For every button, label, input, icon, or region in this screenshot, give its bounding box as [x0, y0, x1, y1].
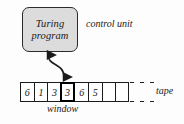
tape-cell[interactable]: 1 — [34, 82, 48, 102]
turing-machine-figure: Turing program control unit 6 1 3 3 6 5 — [0, 0, 184, 124]
tape-dash — [150, 82, 154, 83]
tape-cell[interactable]: 6 — [74, 82, 88, 102]
window-label: window — [47, 103, 78, 114]
tape-cell[interactable]: 5 — [88, 82, 102, 102]
turing-program-line-2: program — [31, 30, 68, 42]
turing-program-line-1: Turing — [36, 18, 65, 30]
tape: 6 1 3 3 6 5 — [20, 82, 129, 102]
tape-dash — [150, 101, 154, 102]
tape-cell[interactable] — [115, 82, 129, 102]
tape-dash — [140, 82, 144, 83]
control-unit-label: control unit — [86, 18, 133, 29]
read-write-head-arrow-icon — [38, 47, 78, 85]
tape-label: tape — [156, 85, 173, 96]
tape-cell[interactable]: 6 — [20, 82, 34, 102]
tape-cell[interactable]: 3 — [47, 82, 61, 102]
tape-dash — [130, 82, 134, 83]
tape-cell-window[interactable]: 3 — [60, 82, 75, 102]
turing-program-box: Turing program — [22, 7, 78, 52]
tape-cell[interactable] — [102, 82, 116, 102]
tape-dash — [140, 101, 144, 102]
tape-dash — [130, 101, 134, 102]
tape-continuation-dashes — [130, 82, 154, 102]
